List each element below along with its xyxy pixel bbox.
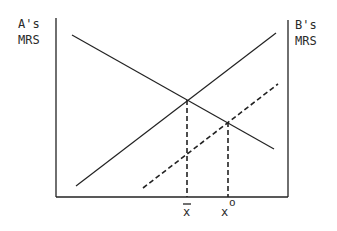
right-axis-label-line2: MRS <box>295 34 317 48</box>
xo-label: x <box>221 205 228 219</box>
xo-superscript: o <box>229 196 236 210</box>
mrs-diagram: A's MRS B's MRS x x o <box>0 0 337 231</box>
left-axis-label-line1: A's <box>18 17 40 31</box>
xbar-label: x <box>183 205 190 219</box>
b-mrs-shifted-curve <box>143 84 278 188</box>
a-mrs-curve <box>72 35 274 149</box>
right-axis-label-line1: B's <box>295 18 317 32</box>
left-axis-label-line2: MRS <box>18 33 40 47</box>
diagram-canvas <box>0 0 337 231</box>
